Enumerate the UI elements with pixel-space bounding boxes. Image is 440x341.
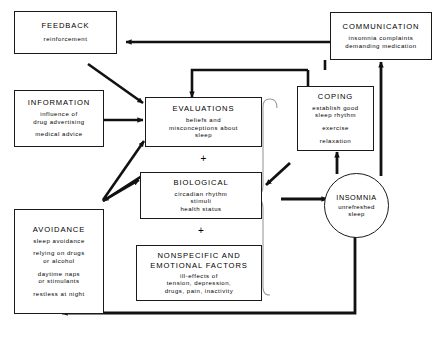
node-biological-line-1: circadian rhythm — [175, 191, 228, 199]
node-nonspecific-line-1: ill-effects of — [180, 273, 218, 281]
brace-evaluations-tick — [270, 99, 277, 108]
node-avoidance-line-6: restless at night — [33, 291, 84, 299]
node-biological-line-3: health status — [180, 206, 221, 214]
node-feedback-title: FEEDBACK — [41, 21, 89, 31]
node-information-line-1: influence of — [40, 111, 77, 119]
node-communication[interactable]: COMMUNICATION insomnia complaints demand… — [330, 12, 432, 60]
operator-plus-2: + — [140, 226, 262, 236]
node-evaluations-line-3: sleep — [195, 132, 212, 140]
node-evaluations-title: EVALUATIONS — [173, 104, 235, 114]
node-feedback-line-1: reinforcement — [44, 36, 88, 44]
node-avoidance[interactable]: AVOIDANCE sleep avoidance relying on dru… — [14, 209, 104, 314]
node-nonspecific-line-3: drugs, pain, inactivity — [165, 288, 234, 296]
node-communication-line-2: demanding medication — [345, 43, 416, 51]
operator-plus-1: + — [145, 154, 262, 164]
node-avoidance-line-3: or alcohol — [43, 258, 75, 266]
node-evaluations-line-1: beliefs and — [186, 117, 221, 125]
arrow-coping-to-brace — [266, 163, 290, 185]
node-information[interactable]: INFORMATION influence of drug advertisin… — [14, 90, 104, 147]
node-avoidance-line-2: relying on drugs — [33, 250, 85, 258]
node-avoidance-line-5: or stimulants — [38, 278, 79, 286]
node-coping-line-4: relaxation — [320, 138, 352, 146]
node-insomnia-line-1: unrefreshed — [338, 204, 374, 211]
node-avoidance-title: AVOIDANCE — [33, 225, 85, 235]
node-nonspecific-and-emotional-factors[interactable]: NONSPECIFIC AND EMOTIONAL FACTORS ill-ef… — [136, 245, 262, 301]
node-nonspecific-title-line-2: EMOTIONAL FACTORS — [150, 261, 248, 271]
node-biological-line-2: stimuli — [191, 198, 212, 206]
line-route-to-evaluations — [192, 70, 308, 97]
node-information-line-2: drug advertising — [33, 119, 85, 127]
node-insomnia[interactable]: INSOMNIA unrefreshed sleep — [324, 173, 389, 238]
node-insomnia-line-2: sleep — [348, 211, 364, 218]
node-coping[interactable]: COPING establish good sleep rhythm exerc… — [297, 86, 374, 151]
node-biological[interactable]: BIOLOGICAL circadian rhythm stimuli heal… — [140, 172, 262, 219]
node-coping-line-3: exercise — [322, 125, 349, 133]
node-nonspecific-title-line-1: NONSPECIFIC AND — [157, 251, 240, 261]
node-information-title: INFORMATION — [28, 98, 91, 108]
node-coping-title: COPING — [318, 92, 353, 102]
node-avoidance-line-4: daytime naps — [38, 271, 80, 279]
diagram-canvas: FEEDBACK reinforcement INFORMATION influ… — [0, 0, 440, 341]
node-coping-line-2: sleep rhythm — [315, 112, 356, 120]
node-coping-line-1: establish good — [312, 105, 358, 113]
node-insomnia-title: INSOMNIA — [336, 193, 376, 202]
node-evaluations-line-2: misconceptions about — [169, 125, 238, 133]
arrow-avoidance-to-evaluations — [103, 141, 144, 200]
node-feedback[interactable]: FEEDBACK reinforcement — [14, 11, 117, 54]
node-biological-title: BIOLOGICAL — [174, 178, 229, 188]
node-information-line-3: medical advice — [35, 131, 82, 139]
node-evaluations[interactable]: EVALUATIONS beliefs and misconceptions a… — [145, 97, 262, 147]
node-communication-line-1: insomnia complaints — [349, 35, 414, 43]
node-communication-title: COMMUNICATION — [343, 22, 420, 32]
node-avoidance-line-1: sleep avoidance — [33, 238, 85, 246]
node-nonspecific-line-2: tension, depression, — [167, 280, 232, 288]
